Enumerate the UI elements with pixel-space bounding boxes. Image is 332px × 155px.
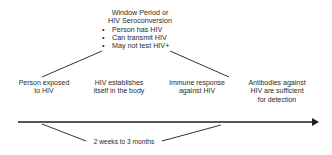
window-left-connector — [42, 51, 102, 77]
timeline-arrowhead — [312, 118, 319, 126]
stage-text: Antibodies against — [237, 79, 317, 87]
stage-text: against HIV — [157, 87, 237, 95]
duration-left-connector — [42, 124, 86, 141]
stage-immune-response: Immune response against HIV — [157, 79, 237, 96]
stage-text: Immune response — [157, 79, 237, 87]
duration-right-connector — [162, 125, 221, 141]
stage-text: to HIV — [4, 87, 84, 95]
stage-text: HIV establishes — [79, 79, 159, 87]
stage-exposure: Person exposed to HIV — [4, 79, 84, 96]
stage-text: itself in the body — [79, 87, 159, 95]
window-period-bullets: Person has HIV Can transmit HIV May not … — [100, 26, 169, 50]
stage-text: Person exposed — [4, 79, 84, 87]
window-title-line2: HIV Seroconversion — [100, 17, 180, 25]
bullet-item: May not test HIV+ — [100, 42, 169, 50]
stage-text: HIV are sufficient — [237, 87, 317, 95]
stage-antibody-detection: Antibodies against HIV are sufficient fo… — [237, 79, 317, 104]
duration-label: 2 weeks to 3 months — [84, 138, 164, 146]
stage-text: for detection — [237, 96, 317, 104]
window-right-connector — [170, 51, 229, 77]
window-period-title: Window Period or HIV Seroconversion — [100, 9, 180, 25]
stage-establishment: HIV establishes itself in the body — [79, 79, 159, 96]
